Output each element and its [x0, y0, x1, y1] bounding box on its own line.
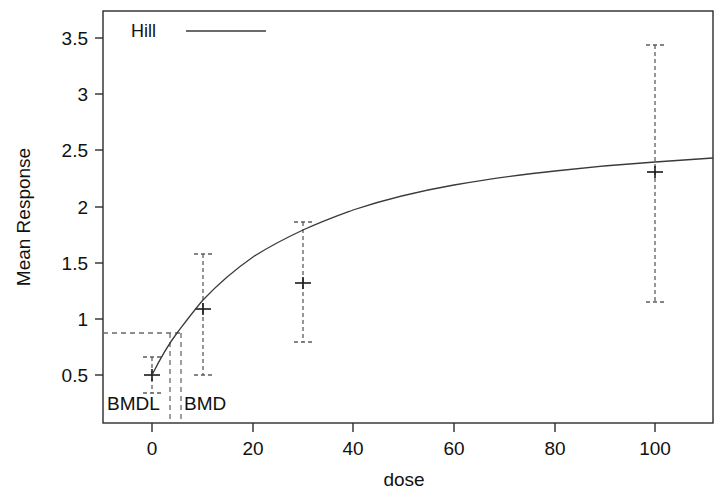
x-tick-label-1: 20	[242, 438, 263, 459]
x-tick-label-0: 0	[147, 438, 158, 459]
x-tick-label-4: 80	[544, 438, 565, 459]
bmd-label: BMD	[184, 393, 226, 414]
x-axis-ticks	[152, 423, 655, 432]
y-tick-label-0: 0.5	[62, 365, 88, 386]
x-tick-label-3: 60	[443, 438, 464, 459]
y-tick-label-1: 1	[77, 309, 88, 330]
chart-container: 0.5 1 1.5 2 2.5 3 3.5 0 20 40 60 80 100 …	[0, 0, 723, 492]
plot-frame	[103, 11, 713, 423]
datapoint-dose-30	[294, 222, 312, 342]
y-axis-tick-labels: 0.5 1 1.5 2 2.5 3 3.5	[62, 28, 88, 386]
x-axis-title: dose	[383, 469, 424, 490]
y-axis-title: Mean Response	[13, 148, 34, 286]
y-tick-label-6: 3.5	[62, 28, 88, 49]
y-tick-label-3: 2	[77, 197, 88, 218]
errorbar-group	[143, 45, 664, 393]
legend: Hill	[131, 21, 266, 41]
legend-label-hill: Hill	[131, 21, 156, 41]
hill-fit-curve	[152, 158, 713, 375]
y-tick-label-4: 2.5	[62, 140, 88, 161]
datapoint-dose-100	[646, 45, 664, 302]
y-tick-label-2: 1.5	[62, 253, 88, 274]
bmdl-label: BMDL	[107, 393, 160, 414]
y-axis-ticks	[95, 38, 103, 375]
x-tick-label-2: 40	[342, 438, 363, 459]
datapoint-dose-10	[194, 254, 212, 375]
y-tick-label-5: 3	[77, 84, 88, 105]
hill-dose-response-chart: 0.5 1 1.5 2 2.5 3 3.5 0 20 40 60 80 100 …	[0, 0, 723, 492]
x-axis-tick-labels: 0 20 40 60 80 100	[147, 438, 671, 459]
x-tick-label-5: 100	[639, 438, 671, 459]
